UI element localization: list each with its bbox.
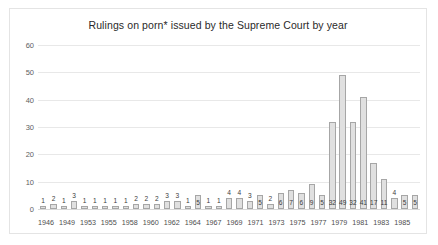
bar[interactable]: 3 [71,201,77,209]
bar-value-label: 11 [381,200,388,207]
x-tick-label: 1981 [352,218,368,227]
bar[interactable]: 7 [288,190,294,209]
bar[interactable]: 1 [92,206,98,209]
bar[interactable]: 4 [236,198,242,209]
bar[interactable]: 2 [154,204,160,209]
x-tick-slot: 1958 [122,211,138,229]
bar-value-label: 2 [269,196,273,203]
bar-slot: 5 [193,45,203,209]
bar[interactable]: 17 [370,163,376,209]
x-tick-slot: 1985 [394,211,410,229]
bar[interactable]: 1 [102,206,108,209]
bar[interactable]: 6 [298,193,304,209]
x-tick-label: 1973 [268,218,284,227]
gridline: 0 [38,209,420,210]
bar[interactable]: 4 [391,198,397,209]
x-tick-slot: 1981 [352,211,368,229]
bar-value-label: 1 [186,198,190,205]
bar[interactable]: 1 [185,206,191,209]
x-tick-slot: 1953 [80,211,96,229]
x-tick-slot: 1964 [185,211,201,229]
bar[interactable]: 3 [247,201,253,209]
bar-slot: 1 [121,45,131,209]
bar-slot: 1 [183,45,193,209]
bar-value-label: 1 [93,198,97,205]
x-tick-label: 1958 [122,218,138,227]
x-tick-label: 1983 [373,218,389,227]
bar-slot: 1 [90,45,100,209]
bar[interactable]: 6 [278,193,284,209]
x-tick-label: 1953 [80,218,96,227]
bar[interactable]: 9 [309,184,315,209]
y-tick-label: 30 [26,123,34,132]
bar-value-label: 4 [392,190,396,197]
bar-slot: 2 [141,45,151,209]
bar-slot: 5 [255,45,265,209]
bar[interactable]: 41 [360,97,366,209]
bar[interactable]: 5 [401,195,407,209]
bars-group: 1213111112223315114435267695324932411711… [38,45,420,209]
x-tick-label: 1946 [38,218,54,227]
bar-value-label: 2 [145,196,149,203]
bar-slot: 1 [214,45,224,209]
bar-slot: 5 [399,45,409,209]
bar[interactable]: 32 [329,122,335,209]
bar[interactable]: 1 [81,206,87,209]
bar[interactable]: 5 [319,195,325,209]
bar-value-label: 5 [258,200,262,207]
bar[interactable]: 1 [112,206,118,209]
bar-value-label: 5 [196,200,200,207]
x-tick-label: 1955 [101,218,117,227]
bar-value-label: 6 [279,200,283,207]
x-tick-label: 1949 [59,218,75,227]
bar-value-label: 1 [103,198,107,205]
bar-value-label: 1 [207,198,211,205]
bar-slot: 5 [317,45,327,209]
bar[interactable]: 2 [267,204,273,209]
y-tick-label: 60 [26,41,34,50]
bar-slot: 4 [234,45,244,209]
bar-value-label: 1 [124,198,128,205]
bar[interactable]: 2 [50,204,56,209]
bar-slot: 32 [327,45,337,209]
x-tick-slot: 1971 [248,211,264,229]
plot-area: 0102030405060 12131111122233151144352676… [38,45,420,209]
x-tick-slot: 1969 [227,211,243,229]
bar-slot: 9 [307,45,317,209]
bar[interactable]: 3 [174,201,180,209]
bar[interactable]: 1 [123,206,129,209]
bar[interactable]: 5 [412,195,418,209]
bar[interactable]: 1 [216,206,222,209]
bar[interactable]: 1 [205,206,211,209]
bar[interactable]: 1 [40,206,46,209]
bar-slot: 3 [245,45,255,209]
bar[interactable]: 2 [133,204,139,209]
x-tick-slot: 1949 [59,211,75,229]
bar[interactable]: 32 [350,122,356,209]
bar[interactable]: 5 [257,195,263,209]
y-tick-label: 40 [26,95,34,104]
bar-slot: 2 [131,45,141,209]
bar-value-label: 3 [165,193,169,200]
x-tick-labels-group: 1946194919531955195819601962196419671969… [38,211,420,229]
x-tick-label: 1960 [143,218,159,227]
bar-value-label: 1 [83,198,87,205]
bar-value-label: 3 [72,193,76,200]
bar[interactable]: 4 [226,198,232,209]
x-tick-label: 1975 [289,218,305,227]
bar-value-label: 7 [289,200,293,207]
bar[interactable]: 5 [195,195,201,209]
bar[interactable]: 2 [143,204,149,209]
x-tick-label: 1979 [331,218,347,227]
bar-slot: 1 [100,45,110,209]
bar-value-label: 2 [52,196,56,203]
bar[interactable]: 11 [381,179,387,209]
bar-value-label: 5 [320,200,324,207]
bar[interactable]: 3 [164,201,170,209]
bar-value-label: 5 [403,200,407,207]
bar-value-label: 17 [370,200,377,207]
bar[interactable]: 1 [61,206,67,209]
bar-slot: 2 [152,45,162,209]
bar-value-label: 32 [349,200,356,207]
bar[interactable]: 49 [339,75,345,209]
